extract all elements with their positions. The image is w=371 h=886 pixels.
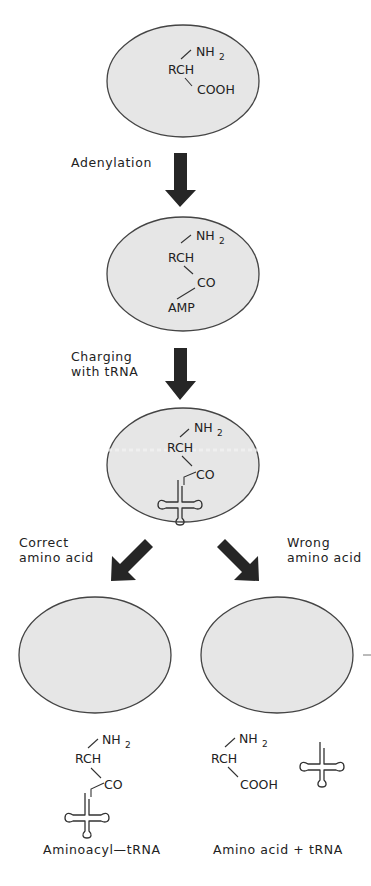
rch-label: RCH (168, 62, 194, 77)
charging-label-line1: Charging (71, 349, 132, 364)
amino-acid-plus-trna-caption: Amino acid + tRNA (213, 842, 343, 857)
aminoacyl-trna-synthesis-diagram: NH 2 RCH COOH Adenylation NH 2 RCH CO AM… (0, 0, 371, 886)
co-label: CO (197, 275, 216, 290)
down-right-arrow-icon (217, 539, 259, 581)
co-label: CO (104, 777, 123, 792)
cell-ellipse (107, 408, 259, 522)
trna-icon (300, 742, 344, 787)
nh2-label: NH (194, 420, 213, 435)
down-arrow-icon (165, 348, 196, 400)
aminoacyl-trna-caption: Aminoacyl—tRNA (43, 842, 161, 857)
cell-ellipse (107, 25, 259, 137)
wrong-label-line1: Wrong (287, 535, 330, 550)
trna-icon (65, 793, 109, 838)
co-label: CO (196, 467, 215, 482)
svg-text:2: 2 (125, 740, 131, 750)
nh2-label: NH (196, 228, 215, 243)
adenylation-label: Adenylation (71, 155, 152, 170)
rch-label: RCH (75, 751, 101, 766)
aminoacyl-trna-product: NH 2 RCH CO Aminoacyl—tRNA (43, 732, 161, 857)
aminoacyl-amp-cell: NH 2 RCH CO AMP (107, 217, 259, 331)
down-arrow-icon (165, 153, 196, 207)
wrong-result-cell (201, 597, 353, 713)
amp-label: AMP (168, 300, 195, 315)
svg-text:2: 2 (262, 739, 268, 749)
svg-text:2: 2 (217, 428, 223, 438)
rch-label: RCH (211, 751, 237, 766)
rch-label: RCH (167, 440, 193, 455)
nh2-label: NH (239, 731, 258, 746)
wrong-label-line2: amino acid (287, 550, 362, 565)
svg-text:2: 2 (219, 52, 225, 62)
svg-text:2: 2 (219, 236, 225, 246)
nh2-label: NH (196, 44, 215, 59)
amino-acid-cell: NH 2 RCH COOH (107, 25, 259, 137)
charging-label-line2: with tRNA (71, 364, 138, 379)
correct-label-line2: amino acid (19, 550, 94, 565)
cooh-label: COOH (197, 82, 235, 97)
nh2-label: NH (102, 732, 121, 747)
charged-trna-cell: NH 2 RCH CO (107, 408, 259, 525)
correct-result-cell (19, 597, 171, 713)
amino-acid-plus-trna-product: NH 2 RCH COOH Amino acid + tRNA (211, 731, 344, 857)
correct-label-line1: Correct (19, 535, 69, 550)
down-left-arrow-icon (111, 539, 153, 581)
rch-label: RCH (168, 250, 194, 265)
cooh-label: COOH (240, 777, 278, 792)
